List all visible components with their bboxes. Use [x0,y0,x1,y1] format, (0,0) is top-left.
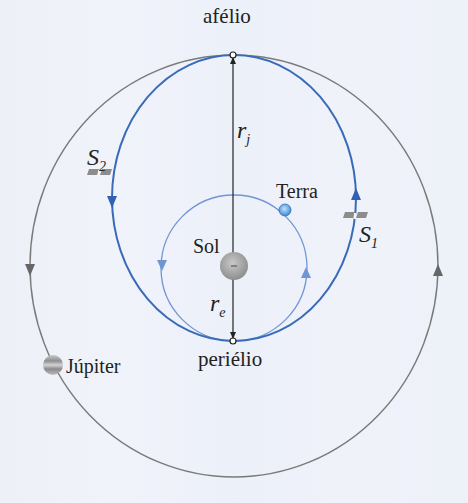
r-jupiter-sub: j [246,132,250,147]
jupiter-orbit-arrow-right [433,264,443,276]
orbit-diagram [0,0,468,503]
earth-icon [279,204,291,216]
perihelion-point [230,338,236,344]
jupiter-orbit-arrow-left [25,264,35,276]
aphelion-point [230,52,236,58]
aphelion-label: afélio [203,6,251,27]
transfer-orbit [112,55,356,341]
s1-main: S [359,221,371,247]
transfer-orbit-arrow-right [351,188,361,200]
s1-label: S1 [359,222,378,246]
s2-label: S2 [87,145,106,169]
r-earth-sub: e [219,305,225,320]
earth-label: Terra [276,181,318,201]
satellite-s1-icon [343,212,368,219]
r-earth-main: r [210,290,219,316]
perihelion-label: periélio [198,349,262,370]
r-jupiter-main: r [237,117,246,143]
s2-main: S [87,144,99,170]
transfer-orbit-arrow-left [107,196,117,208]
jupiter-icon [43,355,63,375]
r-earth-label: re [210,291,226,315]
earth-orbit-arrow-right [301,267,311,278]
s2-sub: 2 [99,159,106,174]
s1-sub: 1 [371,236,378,251]
r-jupiter-label: rj [237,118,250,142]
sun-label: Sol [193,236,220,256]
earth-orbit-arrow-left [157,260,167,271]
jupiter-label: Júpiter [66,356,120,376]
